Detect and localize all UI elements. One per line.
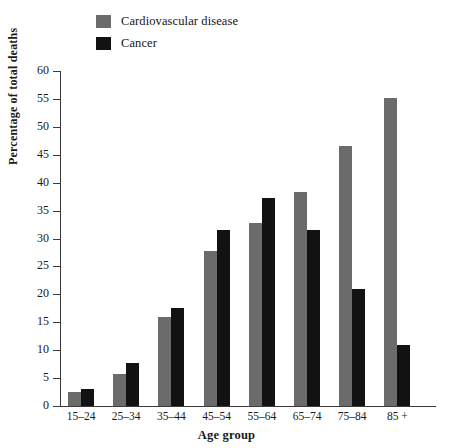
legend-swatch-cancer: [96, 37, 111, 50]
y-tick-15: 15: [53, 322, 60, 323]
plot-area: 051015202530354045505560: [60, 71, 435, 406]
bar-cardiovascular-disease: [384, 98, 397, 406]
bar-group: [68, 71, 94, 406]
y-tick-label: 5: [43, 370, 49, 385]
y-tick-55: 55: [53, 99, 60, 100]
y-axis-title: Percentage of total deaths: [6, 28, 21, 165]
bar-cardiovascular-disease: [339, 146, 352, 406]
x-axis-line: [60, 406, 436, 407]
legend-item-cardiovascular-disease: Cardiovascular disease: [96, 10, 356, 32]
bar-cardiovascular-disease: [249, 223, 262, 406]
y-tick-10: 10: [53, 350, 60, 351]
y-tick-label: 35: [37, 203, 49, 218]
bar-group: [339, 71, 365, 406]
bar-group: [204, 71, 230, 406]
y-tick-60: 60: [53, 71, 60, 72]
x-tick-label: 85 +: [369, 409, 425, 423]
bar-cardiovascular-disease: [158, 317, 171, 406]
bar-cancer: [397, 345, 410, 406]
y-tick-label: 15: [37, 314, 49, 329]
bar-cardiovascular-disease: [113, 374, 126, 406]
y-tick-20: 20: [53, 294, 60, 295]
bar-cancer: [81, 389, 94, 406]
y-tick-label: 10: [37, 342, 49, 357]
y-tick-label: 55: [37, 91, 49, 106]
bar-cardiovascular-disease: [294, 192, 307, 406]
y-tick-label: 60: [37, 63, 49, 78]
bar-cancer: [126, 363, 139, 406]
y-tick-40: 40: [53, 183, 60, 184]
bar-cardiovascular-disease: [204, 251, 217, 406]
chart-legend: Cardiovascular disease Cancer: [96, 10, 356, 54]
bar-group: [113, 71, 139, 406]
y-tick-45: 45: [53, 155, 60, 156]
bar-group: [294, 71, 320, 406]
bar-cancer: [171, 308, 184, 406]
bar-group: [384, 71, 410, 406]
y-tick-25: 25: [53, 266, 60, 267]
y-tick-label: 30: [37, 231, 49, 246]
x-axis-title: Age group: [0, 428, 453, 443]
y-tick-30: 30: [53, 239, 60, 240]
bar-cardiovascular-disease: [68, 392, 81, 406]
bar-group: [158, 71, 184, 406]
bar-cancer: [352, 289, 365, 406]
legend-swatch-cardiovascular-disease: [96, 15, 111, 28]
y-tick-0: 0: [53, 406, 60, 407]
legend-item-cancer: Cancer: [96, 32, 356, 54]
y-tick-label: 25: [37, 258, 49, 273]
y-tick-label: 40: [37, 175, 49, 190]
bar-cancer: [262, 198, 275, 406]
legend-label-cardiovascular-disease: Cardiovascular disease: [121, 15, 238, 28]
y-tick-label: 0: [43, 398, 49, 413]
bar-cancer: [217, 230, 230, 406]
y-tick-label: 50: [37, 119, 49, 134]
y-tick-35: 35: [53, 211, 60, 212]
y-tick-label: 45: [37, 147, 49, 162]
bar-chart: Cardiovascular disease Cancer 0510152025…: [0, 0, 453, 448]
bar-group: [249, 71, 275, 406]
y-tick-5: 5: [53, 378, 60, 379]
y-tick-label: 20: [37, 286, 49, 301]
bar-cancer: [307, 230, 320, 406]
y-tick-50: 50: [53, 127, 60, 128]
legend-label-cancer: Cancer: [121, 37, 157, 50]
